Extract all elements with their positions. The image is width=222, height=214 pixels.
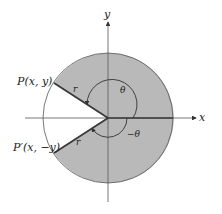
neg-theta-label: −θ xyxy=(127,129,141,139)
angle-reflection-diagram: y x P(x, y) P′(x, −y) r r θ −θ xyxy=(0,0,222,214)
x-axis-label: x xyxy=(199,111,206,124)
point-P-label: P(x, y) xyxy=(16,75,52,88)
y-axis-label: y xyxy=(103,8,111,21)
radius-label-upper: r xyxy=(73,84,78,94)
radius-label-lower: r xyxy=(76,137,81,147)
point-P-prime-label: P′(x, −y) xyxy=(12,141,60,154)
theta-label: θ xyxy=(120,85,126,95)
